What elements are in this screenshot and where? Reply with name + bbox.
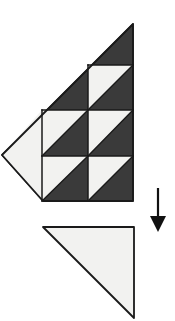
geometry-figure <box>0 0 175 321</box>
figure-root <box>0 0 175 321</box>
